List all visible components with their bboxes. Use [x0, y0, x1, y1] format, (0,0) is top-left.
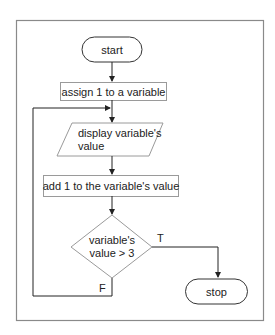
- flowchart-canvas: start assign 1 to a variable display var…: [0, 0, 275, 335]
- decision-label-line2: value > 3: [90, 247, 135, 259]
- display-io-parallelogram: display variable's value: [57, 123, 163, 156]
- assign-process-box: assign 1 to a variable: [61, 83, 167, 101]
- stop-terminal: stop: [186, 279, 248, 304]
- stop-label: stop: [206, 286, 227, 298]
- add-label: add 1 to the variable's value: [43, 180, 180, 192]
- add-process-box: add 1 to the variable's value: [43, 176, 180, 197]
- decision-label-line1: variable's: [89, 234, 136, 246]
- display-label-line2: value: [78, 140, 104, 152]
- diagram-frame: [17, 21, 264, 321]
- start-terminal: start: [82, 37, 142, 62]
- false-label: F: [99, 282, 106, 294]
- true-label: T: [157, 232, 164, 244]
- display-label-line1: display variable's: [78, 127, 162, 139]
- start-label: start: [101, 44, 122, 56]
- assign-label: assign 1 to a variable: [62, 86, 166, 98]
